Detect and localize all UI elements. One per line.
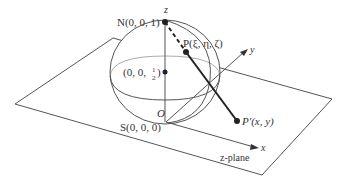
- label-plane: z-plane: [220, 152, 250, 163]
- label-center-den: 2: [152, 74, 156, 82]
- label-x: x: [260, 142, 266, 153]
- stereographic-diagram: z N(0, 0, 1) P(ξ, η, ζ) (0, 0, 1 2 ) y O…: [0, 0, 344, 184]
- label-origin: O: [157, 107, 165, 119]
- point-n: [162, 19, 168, 25]
- point-p: [183, 49, 189, 55]
- label-z: z: [163, 4, 168, 15]
- label-center-close: ): [157, 66, 161, 79]
- label-south: S(0, 0, 0): [120, 121, 161, 134]
- point-center: [163, 70, 168, 75]
- x-axis-arrow-icon: [250, 144, 259, 150]
- label-p: P(ξ, η, ζ): [183, 37, 223, 50]
- label-center-num: 1: [152, 66, 156, 74]
- point-p-prime: [234, 118, 240, 124]
- x-axis: [166, 122, 254, 147]
- label-north: N(0, 0, 1): [117, 16, 160, 29]
- label-center: (0, 0,: [123, 66, 146, 79]
- label-p-prime: P′(x, y): [241, 115, 274, 128]
- label-y: y: [249, 44, 255, 55]
